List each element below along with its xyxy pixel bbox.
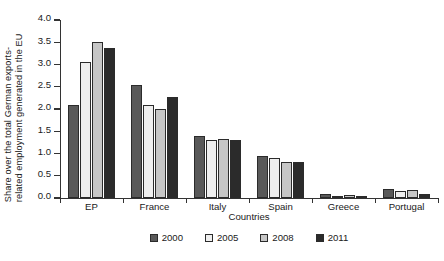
x-axis-tick — [186, 198, 187, 203]
bar-italy-2000 — [194, 136, 205, 198]
bar-portugal-2000 — [383, 189, 394, 198]
plot-area: 0.00.51.01.52.02.53.03.54.0EPFranceItaly… — [60, 20, 438, 198]
bar-france-2011 — [167, 97, 178, 198]
legend-swatch-icon — [260, 234, 268, 242]
bar-group-bars — [375, 20, 438, 198]
y-axis-tick-label: 3.5 — [38, 36, 51, 46]
bar-group: EP — [60, 20, 123, 198]
bar-group-bars — [60, 20, 123, 198]
bar-spain-2011 — [293, 162, 304, 198]
legend-item-2000[interactable]: 2000 — [150, 233, 183, 243]
y-axis-title-line-2: related employment generated in the EU — [15, 33, 24, 202]
y-axis-tick-label: 3.0 — [38, 58, 51, 68]
y-axis-tick-label: 2.0 — [38, 102, 51, 112]
bar-group: Greece — [312, 20, 375, 198]
x-axis-category-label: Portugal — [389, 202, 425, 212]
bar-greece-2008 — [344, 195, 355, 198]
legend-swatch-icon — [205, 234, 213, 242]
x-axis-tick — [123, 198, 124, 203]
bar-greece-2011 — [356, 196, 367, 198]
legend-item-2005[interactable]: 2005 — [205, 233, 238, 243]
legend-label: 2011 — [328, 233, 349, 243]
legend-label: 2000 — [162, 233, 183, 243]
x-axis-tick — [312, 198, 313, 203]
bar-spain-2000 — [257, 156, 268, 198]
x-axis-category-label: France — [140, 202, 170, 212]
legend-label: 2005 — [217, 233, 238, 243]
bar-france-2000 — [131, 85, 142, 198]
x-axis-category-label: Spain — [268, 202, 293, 212]
y-axis-title: Share over the total German exports- rel… — [0, 0, 34, 210]
x-axis-tick — [60, 198, 61, 203]
x-axis-category-label: EP — [85, 202, 98, 212]
bar-portugal-2008 — [407, 190, 418, 198]
x-axis-tick — [438, 198, 439, 203]
bar-group-bars — [123, 20, 186, 198]
y-axis-tick-label: 0.0 — [38, 191, 51, 201]
x-axis-category-label: Greece — [328, 202, 359, 212]
bar-greece-2000 — [320, 194, 331, 198]
bar-ep-2008 — [92, 42, 103, 198]
y-axis-tick-label: 4.0 — [38, 13, 51, 23]
legend-label: 2008 — [272, 233, 293, 243]
bar-greece-2005 — [332, 196, 343, 198]
bar-group: France — [123, 20, 186, 198]
bar-group-bars — [249, 20, 312, 198]
bar-portugal-2011 — [419, 194, 430, 198]
bar-ep-2005 — [80, 62, 91, 198]
bar-ep-2011 — [104, 48, 115, 198]
legend-item-2011[interactable]: 2011 — [316, 233, 349, 243]
legend-swatch-icon — [316, 234, 324, 242]
x-axis-title: Countries — [60, 212, 438, 222]
bar-italy-2011 — [230, 140, 241, 198]
y-axis-title-line-1: Share over the total German exports- — [4, 47, 13, 202]
bar-spain-2005 — [269, 158, 280, 198]
bar-ep-2000 — [68, 105, 79, 198]
bar-france-2005 — [143, 105, 154, 198]
bar-france-2008 — [155, 109, 166, 198]
bar-group: Italy — [186, 20, 249, 198]
x-axis-category-label: Italy — [209, 202, 227, 212]
bar-italy-2005 — [206, 140, 217, 198]
x-axis-tick — [375, 198, 376, 203]
y-axis-tick-label: 2.5 — [38, 80, 51, 90]
bar-group-bars — [186, 20, 249, 198]
legend-swatch-icon — [150, 234, 158, 242]
y-axis-tick-label: 0.5 — [38, 169, 51, 179]
bar-group: Portugal — [375, 20, 438, 198]
y-axis-tick-label: 1.5 — [38, 125, 51, 135]
legend-item-2008[interactable]: 2008 — [260, 233, 293, 243]
y-axis-tick-label: 1.0 — [38, 147, 51, 157]
bar-spain-2008 — [281, 162, 292, 198]
bar-portugal-2005 — [395, 191, 406, 198]
bar-chart-figure: Share over the total German exports- rel… — [0, 0, 444, 261]
bar-italy-2008 — [218, 139, 229, 198]
x-axis-tick — [249, 198, 250, 203]
chart-legend: 2000200520082011 — [60, 233, 438, 243]
bar-group-bars — [312, 20, 375, 198]
bar-group: Spain — [249, 20, 312, 198]
